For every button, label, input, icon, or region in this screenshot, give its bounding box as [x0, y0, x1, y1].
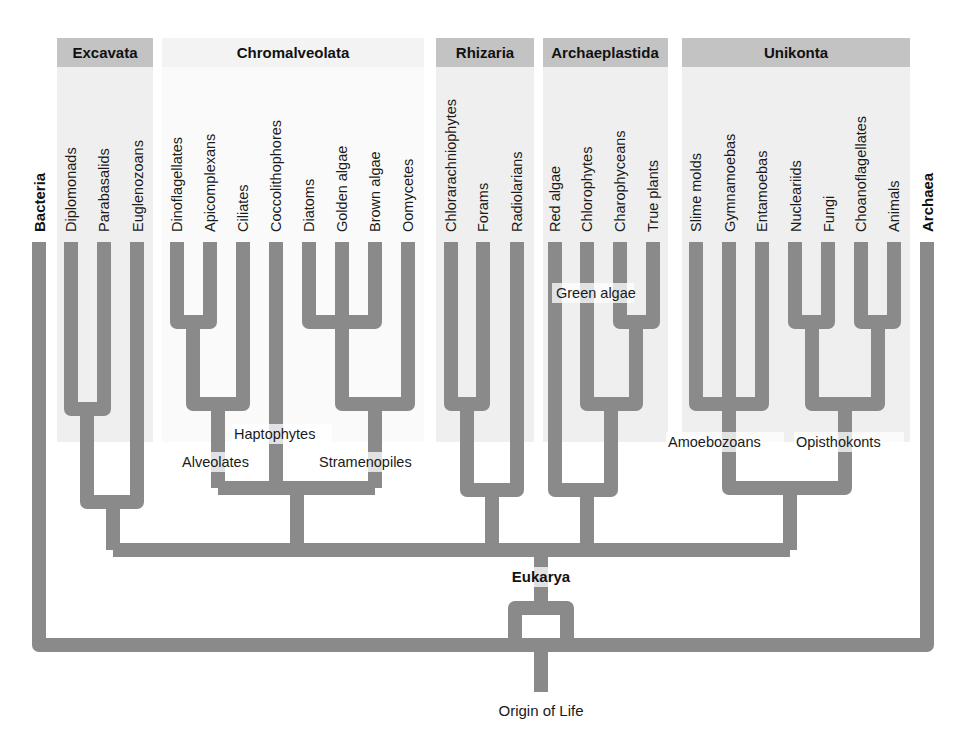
domain-label-eukarya: Eukarya — [512, 568, 571, 585]
clade-label-haptophytes: Haptophytes — [234, 426, 315, 442]
domain-label-bacteria: Bacteria — [31, 172, 48, 232]
leaf-label-golden-algae: Golden algae — [334, 146, 350, 232]
leaf-label-chlorarachniophytes: Chlorarachniophytes — [443, 99, 459, 232]
leaf-label-radiolarians: Radiolarians — [509, 151, 525, 232]
leaf-label-animals: Animals — [886, 180, 902, 232]
leaf-label-coccolithophores: Coccolithophores — [268, 120, 284, 232]
leaf-label-choanoflagellates: Choanoflagellates — [853, 116, 869, 232]
leaf-label-forams: Forams — [475, 183, 491, 232]
leaf-label-apicomplexans: Apicomplexans — [202, 134, 218, 232]
domain-label-archaea: Archaea — [919, 172, 936, 232]
clade-label-green-algae: Green algae — [556, 285, 636, 301]
clade-label-amoebozoans: Amoebozoans — [668, 434, 761, 450]
supergroup-title-chromalveolata: Chromalveolata — [237, 44, 350, 61]
leaf-label-oomycetes: Oomycetes — [400, 159, 416, 232]
supergroup-title-archaeplastida: Archaeplastida — [551, 44, 659, 61]
leaf-label-euglenozoans: Euglenozoans — [130, 140, 146, 232]
leaf-label-slime-molds: Slime molds — [688, 153, 704, 232]
supergroup-band-chromalveolata — [162, 67, 424, 442]
leaf-label-true-plants: True plants — [645, 160, 661, 232]
leaf-label-fungi: Fungi — [821, 196, 837, 232]
clade-label-stramenopiles: Stramenopiles — [319, 454, 412, 470]
supergroup-title-rhizaria: Rhizaria — [456, 44, 515, 61]
leaf-label-chlorophytes: Chlorophytes — [579, 147, 595, 232]
clade-label-opisthokonts: Opisthokonts — [796, 434, 881, 450]
supergroup-title-excavata: Excavata — [72, 44, 138, 61]
root-label-origin-of-life: Origin of Life — [498, 702, 583, 719]
leaf-label-gymnamoebas: Gymnamoebas — [722, 134, 738, 232]
clade-label-alveolates: Alveolates — [182, 454, 249, 470]
phylogenetic-tree: Excavata Chromalveolata Rhizaria Archaep… — [0, 0, 966, 729]
leaf-label-nucleariids: Nucleariids — [788, 160, 804, 232]
leaf-label-red-algae: Red algae — [547, 166, 563, 232]
leaf-label-brown-algae: Brown algae — [367, 151, 383, 232]
leaf-label-charophyceans: Charophyceans — [612, 130, 628, 232]
supergroup-title-unikonta: Unikonta — [764, 44, 829, 61]
leaf-label-parabasalids: Parabasalids — [96, 148, 112, 232]
leaf-label-diplomonads: Diplomonads — [63, 147, 79, 232]
leaf-label-entamoebas: Entamoebas — [754, 151, 770, 232]
leaf-label-ciliates: Ciliates — [235, 184, 251, 232]
leaf-label-diatoms: Diatoms — [301, 179, 317, 232]
leaf-label-dinoflagellates: Dinoflagellates — [169, 137, 185, 232]
